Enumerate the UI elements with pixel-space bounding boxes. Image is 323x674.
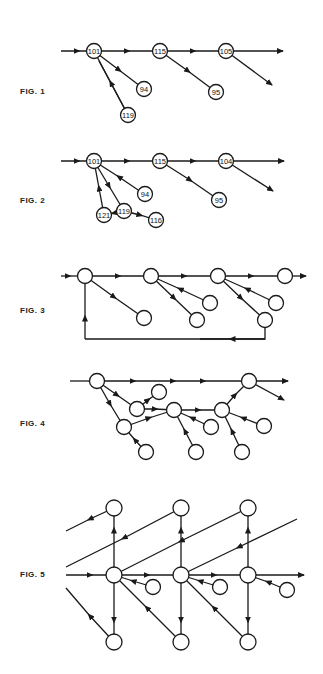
node: [190, 313, 205, 328]
node-101: 101: [87, 44, 102, 59]
svg-text:105: 105: [220, 47, 233, 56]
node: [173, 500, 189, 516]
svg-text:94: 94: [141, 190, 149, 199]
node-115: 115: [153, 154, 168, 169]
node: [240, 500, 256, 516]
svg-text:121: 121: [98, 211, 111, 220]
node: [213, 580, 228, 595]
node-115: 115: [153, 44, 168, 59]
node: [235, 445, 250, 460]
node: [278, 269, 293, 284]
node: [280, 583, 295, 598]
node: [146, 580, 161, 595]
node: [167, 403, 182, 418]
svg-text:119: 119: [122, 111, 134, 120]
node: [106, 634, 122, 650]
node: [242, 374, 257, 389]
node: [189, 445, 204, 460]
node-119: 119: [117, 204, 132, 219]
svg-text:115: 115: [154, 157, 166, 166]
node-94: 94: [137, 82, 152, 97]
node: [257, 419, 272, 434]
node: [203, 296, 218, 311]
node: [106, 567, 122, 583]
node-95: 95: [209, 85, 224, 100]
node: [139, 445, 154, 460]
node: [215, 403, 230, 418]
node: [90, 374, 105, 389]
node-119: 119: [121, 108, 136, 123]
node: [258, 313, 273, 328]
node: [211, 269, 226, 284]
node-94: 94: [138, 187, 153, 202]
figure-2: 101 115 104 94 95 121 119 116: [61, 154, 284, 228]
svg-text:94: 94: [140, 85, 148, 94]
svg-text:119: 119: [118, 207, 130, 216]
figure-4: [70, 374, 288, 460]
node-101: 101: [87, 154, 102, 169]
svg-text:95: 95: [212, 88, 220, 97]
svg-text:101: 101: [88, 157, 101, 166]
node-116: 116: [149, 213, 164, 228]
node: [106, 500, 122, 516]
node-121: 121: [97, 208, 112, 223]
node: [144, 269, 159, 284]
node: [173, 634, 189, 650]
node: [152, 385, 167, 400]
node: [130, 402, 145, 417]
svg-text:116: 116: [150, 216, 162, 225]
node-104: 104: [219, 154, 234, 169]
node: [240, 567, 256, 583]
node: [240, 634, 256, 650]
node: [173, 567, 189, 583]
node: [269, 296, 284, 311]
figures-diagram: 101 115 105 94 95 119 101 115 104 94 95 …: [0, 0, 323, 674]
node-95: 95: [212, 193, 227, 208]
node: [117, 420, 132, 435]
node: [137, 311, 152, 326]
node: [204, 420, 219, 435]
svg-text:101: 101: [88, 47, 101, 56]
svg-text:115: 115: [154, 47, 166, 56]
figure-3: [61, 269, 306, 340]
figure-5: [66, 500, 304, 650]
figure-1: 101 115 105 94 95 119: [61, 44, 283, 123]
node-105: 105: [219, 44, 234, 59]
svg-text:95: 95: [215, 196, 223, 205]
svg-text:104: 104: [220, 157, 233, 166]
node: [78, 269, 93, 284]
